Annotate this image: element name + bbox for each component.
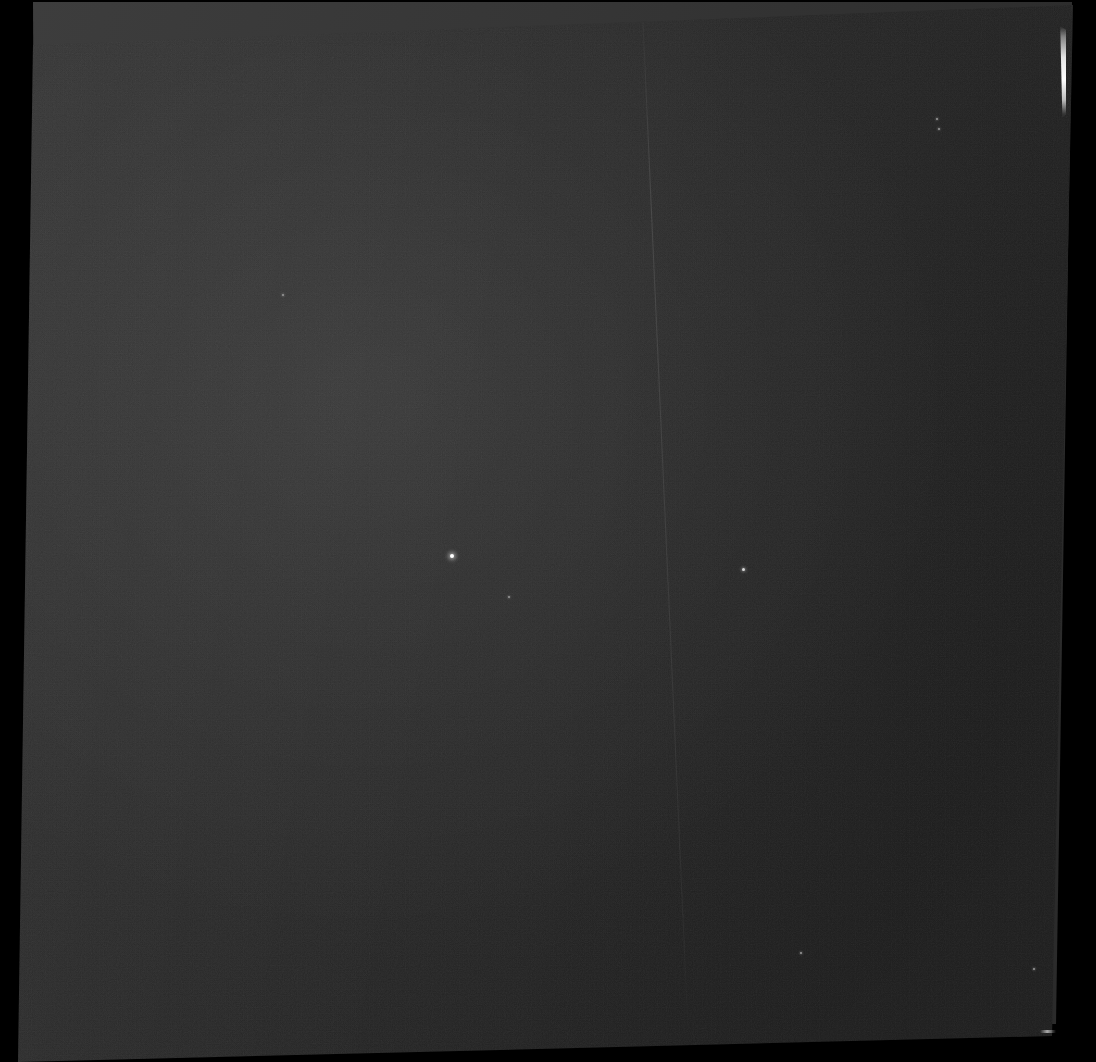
exposure-layers-group (0, 0, 1096, 1062)
illumination-bloom (18, 5, 1073, 1062)
detector-frame-canvas (0, 0, 1096, 1062)
